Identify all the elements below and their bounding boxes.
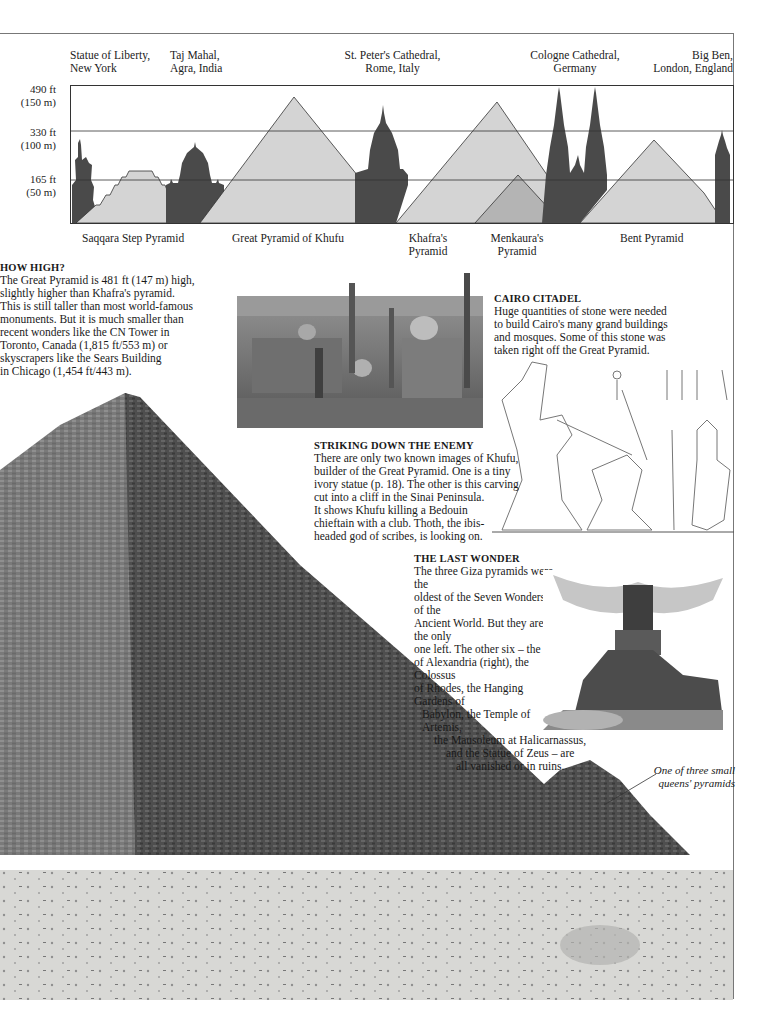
caption-heading: CAIRO CITADEL (494, 292, 724, 305)
label-line: New York (70, 62, 150, 75)
caption-line: taken right off the Great Pyramid. (494, 344, 724, 357)
caption-line: Huge quantities of stone were needed (494, 305, 724, 318)
label-line: Germany (520, 62, 630, 75)
caption-line: There are only two known images of Khufu… (314, 452, 534, 465)
caption-line: It shows Khufu killing a Bedouin (314, 504, 534, 517)
caption-line: and mosques. Some of this stone was (494, 331, 724, 344)
ytick-m: (100 m) (6, 139, 56, 152)
label-line: Big Ben, (633, 49, 733, 62)
lighthouse-alexandria-engraving (543, 570, 733, 738)
caption-line: headed god of scribes, is looking on. (314, 530, 534, 543)
label-cologne-cathedral: Cologne Cathedral, Germany (520, 49, 630, 75)
caption-line: Babylon, the Temple of Artemis, (414, 708, 554, 734)
label-line: Pyramid (482, 245, 552, 258)
caption-line: of Rhodes, the Hanging Gardens of (414, 682, 554, 708)
caption-line: Ancient World. But they are the only (414, 617, 554, 643)
caption-heading: THE LAST WONDER (414, 552, 554, 565)
label-line: Rome, Italy (330, 62, 455, 75)
label-taj-mahal: Taj Mahal, Agra, India (170, 49, 222, 75)
callout-leader-line (600, 770, 660, 810)
desert-sand-foreground (0, 870, 733, 1000)
caption-line: This is still taller than most world-fam… (0, 300, 230, 313)
caption-line: recent wonders like the CN Tower in (0, 326, 230, 339)
caption-line: all vanished or in ruins. (414, 760, 554, 773)
caption-line: the Mausoleum at Halicarnassus, (414, 734, 554, 747)
label-saqqara: Saqqara Step Pyramid (82, 232, 184, 245)
caption-line: to build Cairo's many grand buildings (494, 318, 724, 331)
caption-line: slightly higher than Khafra's pyramid. (0, 287, 230, 300)
ytick-m: (50 m) (6, 186, 56, 199)
label-big-ben: Big Ben, London, England (633, 49, 733, 75)
caption-line: of Alexandria (right), the Colossus (414, 656, 554, 682)
caption-line: Toronto, Canada (1,815 ft/553 m) or (0, 339, 230, 352)
label-statue-of-liberty: Statue of Liberty, New York (70, 49, 150, 75)
caption-how-high: HOW HIGH? The Great Pyramid is 481 ft (1… (0, 261, 230, 378)
label-line: Cologne Cathedral, (520, 49, 630, 62)
caption-line: The three Giza pyramids were the (414, 565, 554, 591)
label-khafra: Khafra's Pyramid (398, 232, 458, 258)
label-line: Statue of Liberty, (70, 49, 150, 62)
caption-line: monuments. But it is much smaller than (0, 313, 230, 326)
label-line: Agra, India (170, 62, 222, 75)
label-st-peters: St. Peter's Cathedral, Rome, Italy (330, 49, 455, 75)
ytick-ft: 330 ft (6, 126, 56, 139)
label-line: Menkaura's (482, 232, 552, 245)
caption-line: The Great Pyramid is 481 ft (147 m) high… (0, 274, 230, 287)
label-menkaura: Menkaura's Pyramid (482, 232, 552, 258)
ytick-ft: 165 ft (6, 173, 56, 186)
caption-line: one left. The other six – the Lighthouse (414, 643, 554, 656)
label-bent: Bent Pyramid (620, 232, 684, 245)
caption-line: builder of the Great Pyramid. One is a t… (314, 465, 534, 478)
caption-line: ivory statue (p. 18). The other is this … (314, 478, 534, 491)
caption-last-wonder: THE LAST WONDER The three Giza pyramids … (414, 552, 554, 773)
ytick-ft: 490 ft (6, 83, 56, 96)
caption-line: cut into a cliff in the Sinai Peninsula. (314, 491, 534, 504)
caption-line: and the Statue of Zeus – are (414, 747, 554, 760)
label-line: Taj Mahal, (170, 49, 222, 62)
caption-line: in Chicago (1,454 ft/443 m). (0, 365, 230, 378)
ytick-490: 490 ft (150 m) (6, 83, 56, 108)
caption-heading: HOW HIGH? (0, 261, 230, 274)
caption-line: skyscrapers like the Sears Building (0, 352, 230, 365)
label-line: Khafra's (398, 232, 458, 245)
label-khufu: Great Pyramid of Khufu (232, 232, 344, 245)
caption-striking-down: STRIKING DOWN THE ENEMY There are only t… (314, 439, 534, 543)
height-comparison-chart (70, 85, 734, 224)
caption-cairo-citadel: CAIRO CITADEL Huge quantities of stone w… (494, 292, 724, 357)
caption-line: oldest of the Seven Wonders of the (414, 591, 554, 617)
ytick-165: 165 ft (50 m) (6, 173, 56, 198)
caption-heading: STRIKING DOWN THE ENEMY (314, 439, 534, 452)
ytick-330: 330 ft (100 m) (6, 126, 56, 151)
caption-line: chieftain with a club. Thoth, the ibis- (314, 517, 534, 530)
label-line: London, England (633, 62, 733, 75)
label-line: St. Peter's Cathedral, (330, 49, 455, 62)
label-line: Pyramid (398, 245, 458, 258)
ytick-m: (150 m) (6, 96, 56, 109)
